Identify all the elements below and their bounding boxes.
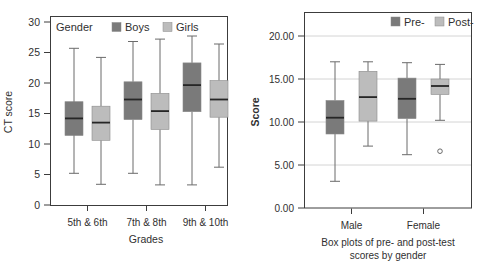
legend-title-gender: Gender bbox=[56, 21, 93, 33]
box-girls-5th-6th[interactable] bbox=[92, 57, 110, 184]
box-post-male[interactable] bbox=[359, 62, 377, 146]
box-plot-figure: CT score 30 25 20 15 10 5 0 bbox=[0, 0, 487, 264]
cat-label-female: Female bbox=[407, 220, 441, 231]
box-girls-9th-10th[interactable] bbox=[210, 44, 228, 167]
left-chart-panel: CT score 30 25 20 15 10 5 0 bbox=[0, 0, 243, 264]
legend-label-pre: Pre- bbox=[404, 16, 425, 28]
legend-label-boys: Boys bbox=[125, 21, 150, 33]
left-x-axis-title: Grades bbox=[129, 233, 163, 245]
caption-line-2: scores by gender bbox=[350, 250, 427, 261]
left-chart-svg: CT score 30 25 20 15 10 5 0 bbox=[0, 0, 243, 264]
y-tick-2000: 20.00 bbox=[269, 31, 294, 42]
box-post-female[interactable] bbox=[431, 64, 449, 153]
right-caption: Box plots of pre- and post-test scores b… bbox=[321, 237, 455, 261]
cat-label-9th-10th: 9th & 10th bbox=[183, 217, 229, 228]
y-tick-0: 0 bbox=[34, 199, 40, 211]
right-y-tick-labels: 20.00 15.00 10.00 5.00 0.00 bbox=[269, 31, 294, 214]
left-y-tick-marks bbox=[44, 22, 50, 205]
cat-label-5th-6th: 5th & 6th bbox=[67, 217, 107, 228]
left-boxes bbox=[65, 36, 228, 185]
legend-label-girls: Girls bbox=[176, 21, 199, 33]
legend-label-post: Post- bbox=[448, 16, 474, 28]
left-y-axis-label: CT score bbox=[2, 91, 14, 134]
right-y-tick-marks bbox=[298, 36, 304, 208]
box-girls-7th-8th[interactable] bbox=[151, 39, 169, 185]
legend-swatch-girls bbox=[163, 23, 172, 32]
right-chart-panel: Score 20.00 15.00 10.00 5.00 0.00 bbox=[243, 0, 487, 264]
y-tick-10: 10 bbox=[28, 138, 40, 150]
box-pre-female[interactable] bbox=[398, 63, 416, 155]
right-x-tick-marks bbox=[352, 209, 424, 215]
right-x-category-labels: Male Female bbox=[341, 220, 441, 231]
box-pre-male[interactable] bbox=[326, 62, 344, 182]
left-x-tick-marks bbox=[88, 206, 206, 212]
y-tick-000: 0.00 bbox=[275, 203, 295, 214]
y-tick-5: 5 bbox=[34, 168, 40, 180]
y-tick-20: 20 bbox=[28, 77, 40, 89]
legend-swatch-pre bbox=[391, 17, 400, 26]
cat-label-male: Male bbox=[341, 220, 363, 231]
left-legend: Gender Boys Girls bbox=[56, 21, 199, 33]
y-tick-25: 25 bbox=[28, 46, 40, 58]
box-boys-5th-6th[interactable] bbox=[65, 48, 83, 173]
right-legend: Pre- Post- bbox=[391, 16, 474, 28]
right-chart-svg: Score 20.00 15.00 10.00 5.00 0.00 bbox=[243, 0, 487, 264]
y-tick-500: 5.00 bbox=[275, 160, 295, 171]
cat-label-7th-8th: 7th & 8th bbox=[126, 217, 166, 228]
y-tick-1000: 10.00 bbox=[269, 117, 294, 128]
left-x-category-labels: 5th & 6th 7th & 8th 9th & 10th bbox=[67, 217, 228, 228]
outlier-point bbox=[438, 149, 443, 154]
box-boys-7th-8th[interactable] bbox=[124, 42, 142, 174]
y-tick-15: 15 bbox=[28, 107, 40, 119]
left-y-tick-labels: 30 25 20 15 10 5 0 bbox=[28, 16, 40, 211]
caption-line-1: Box plots of pre- and post-test bbox=[321, 237, 455, 248]
y-tick-1500: 15.00 bbox=[269, 74, 294, 85]
legend-swatch-post bbox=[435, 17, 444, 26]
box-boys-9th-10th[interactable] bbox=[183, 36, 201, 185]
y-tick-30: 30 bbox=[28, 16, 40, 28]
legend-swatch-boys bbox=[112, 23, 121, 32]
right-y-axis-label: Score bbox=[249, 97, 261, 126]
